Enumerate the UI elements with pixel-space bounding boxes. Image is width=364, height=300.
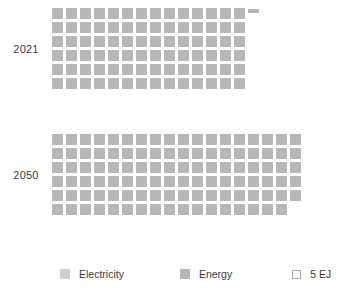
waffle-cell [178, 64, 189, 75]
waffle-cell [66, 64, 77, 75]
waffle-row [52, 22, 259, 33]
waffle-cell [178, 78, 189, 89]
waffle-cell [94, 134, 105, 145]
waffle-cell [52, 50, 63, 61]
waffle-grid-2021 [52, 8, 259, 89]
waffle-row [52, 64, 259, 75]
waffle-cell [248, 148, 259, 159]
waffle-cell [220, 190, 231, 201]
waffle-cell [80, 8, 91, 19]
waffle-row [52, 148, 301, 159]
waffle-cell [94, 190, 105, 201]
waffle-cell [262, 176, 273, 187]
waffle-cell [164, 8, 175, 19]
waffle-cell [220, 8, 231, 19]
waffle-cell [206, 162, 217, 173]
waffle-cell [206, 36, 217, 47]
waffle-cell [234, 134, 245, 145]
waffle-cell [122, 22, 133, 33]
waffle-group-2050: 2050 [0, 132, 301, 217]
waffle-cell [276, 204, 287, 215]
waffle-cell [234, 204, 245, 215]
waffle-cell [136, 50, 147, 61]
waffle-row [52, 8, 259, 19]
waffle-cell [164, 204, 175, 215]
waffle-row [52, 78, 259, 89]
waffle-cell [164, 134, 175, 145]
legend-item-unit: 5 EJ [292, 268, 331, 280]
waffle-cell [108, 78, 119, 89]
legend-item-energy[interactable]: Energy [180, 268, 232, 280]
waffle-cell [80, 64, 91, 75]
waffle-cell [276, 134, 287, 145]
waffle-cell [220, 162, 231, 173]
waffle-cell [122, 8, 133, 19]
waffle-cell [150, 134, 161, 145]
waffle-cell [262, 148, 273, 159]
legend-label-electricity: Electricity [79, 268, 124, 280]
waffle-cell [122, 50, 133, 61]
waffle-cell [234, 162, 245, 173]
waffle-cell [192, 22, 203, 33]
waffle-cell-partial [248, 9, 259, 13]
waffle-grid-2050 [52, 134, 301, 215]
waffle-cell [122, 64, 133, 75]
waffle-cell [178, 50, 189, 61]
waffle-cell [178, 148, 189, 159]
waffle-cell [66, 22, 77, 33]
waffle-cell [136, 22, 147, 33]
waffle-cell [290, 162, 301, 173]
waffle-cell [150, 162, 161, 173]
waffle-cell [192, 148, 203, 159]
waffle-cell [108, 190, 119, 201]
waffle-cell [178, 204, 189, 215]
waffle-cell [66, 176, 77, 187]
waffle-cell [150, 204, 161, 215]
waffle-cell [80, 134, 91, 145]
waffle-cell [122, 36, 133, 47]
waffle-cell [164, 190, 175, 201]
waffle-cell [136, 134, 147, 145]
waffle-cell [220, 78, 231, 89]
waffle-cell [206, 134, 217, 145]
waffle-cell [66, 78, 77, 89]
waffle-cell [94, 50, 105, 61]
waffle-cell [192, 64, 203, 75]
legend-item-electricity[interactable]: Electricity [60, 268, 124, 280]
waffle-cell [234, 50, 245, 61]
waffle-cell [164, 162, 175, 173]
waffle-cell [52, 36, 63, 47]
waffle-cell [290, 190, 301, 201]
waffle-cell [192, 162, 203, 173]
chart-legend: Electricity Energy 5 EJ [60, 266, 360, 282]
waffle-cell [206, 64, 217, 75]
waffle-cell [66, 148, 77, 159]
waffle-cell [220, 204, 231, 215]
waffle-cell [150, 148, 161, 159]
waffle-cell [206, 8, 217, 19]
waffle-cell [206, 176, 217, 187]
waffle-cell [136, 36, 147, 47]
waffle-cell [192, 176, 203, 187]
legend-swatch-energy-icon [180, 269, 190, 279]
waffle-cell [192, 8, 203, 19]
waffle-cell [80, 50, 91, 61]
waffle-cell [52, 162, 63, 173]
waffle-cell [122, 176, 133, 187]
waffle-cell [150, 64, 161, 75]
waffle-cell [276, 190, 287, 201]
waffle-cell [122, 148, 133, 159]
waffle-cell [66, 8, 77, 19]
waffle-cell [52, 64, 63, 75]
waffle-cell [94, 78, 105, 89]
waffle-cell [206, 50, 217, 61]
waffle-cell [94, 162, 105, 173]
waffle-cell [262, 162, 273, 173]
group-label-2021: 2021 [0, 43, 52, 55]
waffle-cell [178, 8, 189, 19]
waffle-cell [136, 8, 147, 19]
waffle-cell [52, 134, 63, 145]
waffle-cell [192, 134, 203, 145]
waffle-cell [80, 78, 91, 89]
waffle-cell [262, 190, 273, 201]
